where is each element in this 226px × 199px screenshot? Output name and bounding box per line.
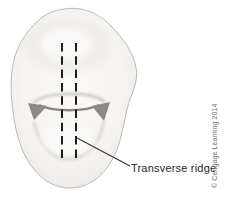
figure-canvas: Transverse ridge © Cengage Learning 2014 <box>0 0 226 199</box>
lower-cusp-highlight <box>40 125 96 155</box>
upper-cusp-highlight <box>40 28 92 60</box>
copyright-text: © Cengage Learning 2014 <box>211 103 219 188</box>
transverse-ridge-label: Transverse ridge <box>131 162 216 175</box>
